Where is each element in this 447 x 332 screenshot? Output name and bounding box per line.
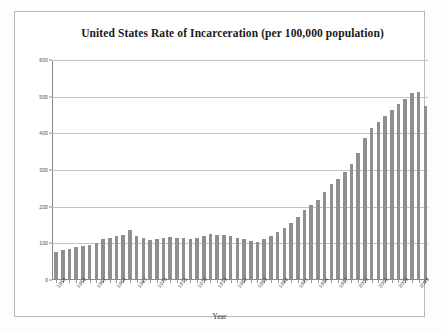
x-tick-mark [351, 280, 352, 283]
bar [189, 239, 193, 279]
bar [283, 228, 287, 279]
bar [249, 241, 253, 279]
y-tick-mark [49, 280, 52, 281]
bar [81, 246, 85, 279]
bar [336, 179, 340, 279]
x-tick-mark [311, 280, 312, 283]
bar [403, 99, 407, 279]
y-tick-mark [49, 96, 52, 97]
bar [195, 238, 199, 279]
bar [410, 93, 414, 279]
bar [363, 138, 367, 279]
x-tick-mark [412, 280, 413, 283]
bar [343, 172, 347, 279]
y-tick-label: 100 [39, 240, 48, 246]
x-tick-mark [210, 280, 211, 283]
x-tick-mark [271, 280, 272, 283]
chart-frame: United States Rate of Incarceration (per… [14, 11, 425, 317]
x-tick-mark [150, 280, 151, 283]
chart-page: United States Rate of Incarceration (per… [0, 0, 447, 332]
bar [121, 235, 125, 279]
x-tick-mark [69, 280, 70, 283]
bar [377, 122, 381, 279]
bar [236, 238, 240, 279]
y-tick-label: 600 [39, 57, 48, 63]
y-tick-mark [49, 60, 52, 61]
bar [95, 243, 99, 279]
x-tick-mark [251, 280, 252, 283]
x-axis-ticks: 1955195819611964196719701973197619791982… [53, 280, 429, 286]
bar [390, 110, 394, 279]
y-tick-label: 0 [45, 277, 48, 283]
y-tick-label: 400 [39, 130, 48, 136]
bar [397, 104, 401, 279]
bar [222, 235, 226, 279]
bar [135, 236, 139, 279]
y-tick-mark [49, 170, 52, 171]
y-tick-label: 300 [39, 167, 48, 173]
bar [168, 237, 172, 279]
bar [256, 242, 260, 279]
bar [289, 223, 293, 279]
x-tick-mark [331, 280, 332, 283]
bar [383, 116, 387, 279]
bar [54, 252, 58, 279]
bar [142, 238, 146, 279]
bar [175, 238, 179, 279]
chart-title: United States Rate of Incarceration (per… [55, 26, 410, 40]
bar [74, 247, 78, 279]
bar [162, 238, 166, 279]
bar [101, 239, 105, 279]
bar [330, 184, 334, 279]
bar [182, 238, 186, 279]
bar [68, 249, 72, 279]
bar [209, 234, 213, 279]
y-tick-mark [49, 243, 52, 244]
y-tick-mark [49, 133, 52, 134]
bar [215, 235, 219, 279]
y-tick-label: 200 [39, 204, 48, 210]
y-tick-mark [49, 206, 52, 207]
x-tick-mark [130, 280, 131, 283]
bar [303, 210, 307, 279]
y-tick-label: 500 [39, 94, 48, 100]
x-axis-title: Year [15, 312, 424, 321]
bar [128, 230, 132, 280]
x-tick-mark [291, 280, 292, 283]
x-tick-mark [110, 280, 111, 283]
bar [155, 239, 159, 279]
bar [269, 236, 273, 279]
bar [356, 153, 360, 279]
bar [276, 232, 280, 279]
bar [262, 239, 266, 279]
x-tick-mark [170, 280, 171, 283]
bar [350, 164, 354, 279]
bar [61, 250, 65, 279]
bar-series [53, 60, 428, 279]
bar [242, 239, 246, 279]
x-tick-mark [231, 280, 232, 283]
plot-area: 0100200300400500600 [52, 60, 428, 280]
bar [202, 236, 206, 279]
bar [309, 205, 313, 279]
bar [417, 92, 421, 279]
bar [148, 240, 152, 279]
bar [323, 192, 327, 279]
bar [88, 245, 92, 279]
bar [115, 236, 119, 279]
x-tick-mark [372, 280, 373, 283]
bar [370, 128, 374, 279]
bar [229, 236, 233, 279]
x-tick-mark [90, 280, 91, 283]
x-tick-mark [190, 280, 191, 283]
x-tick-mark [392, 280, 393, 283]
bar [108, 238, 112, 279]
bar [296, 217, 300, 279]
bar [316, 200, 320, 279]
bar [424, 106, 428, 279]
